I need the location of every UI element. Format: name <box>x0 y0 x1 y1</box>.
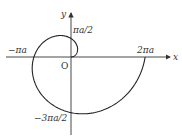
y-axis-label: y <box>60 9 67 19</box>
tick-label-neg-y: −3πa/2 <box>34 113 68 123</box>
x-axis-label: x <box>173 52 178 62</box>
origin-label: O <box>61 61 68 71</box>
spiral-curve <box>32 36 145 114</box>
tick-label-pos-x: 2πa <box>136 45 154 55</box>
tick-label-neg-x: −πa <box>8 45 27 55</box>
spiral-diagram: x y O πa/2 −πa 2πa −3πa/2 <box>0 0 182 139</box>
tick-label-pos-y: πa/2 <box>72 25 93 35</box>
